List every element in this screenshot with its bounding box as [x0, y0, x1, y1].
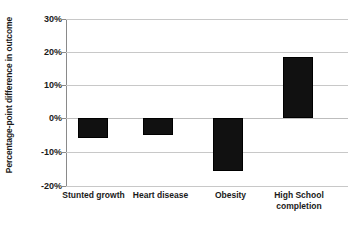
bar-obesity	[213, 118, 243, 171]
bar-stunted-growth	[78, 118, 108, 138]
category-label-stunted-growth: Stunted growth	[56, 190, 131, 201]
y-tick-label-10: 10%	[16, 80, 62, 90]
y-tick-label-30: 30%	[16, 14, 62, 24]
bar-high-school-completion	[283, 57, 313, 119]
y-tick-label-0: 0%	[16, 113, 62, 123]
bar-heart-disease	[143, 118, 173, 135]
y-axis-title-text: Percentage-point difference in outcome	[4, 17, 14, 173]
gridline-neg10	[66, 152, 348, 153]
category-label-obesity: Obesity	[193, 190, 268, 201]
category-label-heart-disease: Heart disease	[123, 190, 198, 201]
gridline-30	[66, 19, 348, 20]
plot-area	[66, 19, 348, 186]
y-tick-label-neg10: -10%	[16, 147, 62, 157]
bar-chart-figure: Percentage-point difference in outcome 3…	[0, 0, 356, 227]
x-axis-category-labels: Stunted growth Heart disease Obesity Hig…	[66, 190, 348, 227]
gridline-20	[66, 52, 348, 53]
y-tick-label-20: 20%	[16, 47, 62, 57]
category-label-high-school-completion: High School completion	[263, 190, 335, 212]
gridline-0	[66, 118, 348, 119]
gridline-neg20	[66, 186, 348, 187]
